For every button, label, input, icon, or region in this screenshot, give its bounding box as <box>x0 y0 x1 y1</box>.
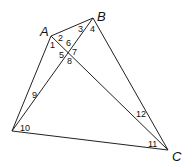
angle-label-5: 5 <box>59 50 64 60</box>
side-da <box>12 36 51 131</box>
angle-label-9: 9 <box>32 90 37 100</box>
angle-label-10: 10 <box>20 123 30 133</box>
vertex-label-c: C <box>172 149 182 164</box>
angle-label-6: 6 <box>66 38 71 48</box>
angle-label-11: 11 <box>148 139 157 149</box>
vertex-label-a: A <box>39 24 49 39</box>
side-cd <box>12 131 168 150</box>
geometry-diagram: A B C 1 2 3 4 5 6 7 8 9 10 11 12 <box>0 0 189 166</box>
angle-label-2: 2 <box>58 33 63 43</box>
angle-label-12: 12 <box>136 109 146 119</box>
vertex-label-b: B <box>97 9 106 24</box>
diagonal-ac <box>51 36 168 150</box>
angle-label-1: 1 <box>50 40 55 50</box>
angle-label-4: 4 <box>90 24 95 34</box>
angle-label-8: 8 <box>67 56 72 66</box>
side-bc <box>93 18 168 150</box>
angle-label-7: 7 <box>72 47 77 57</box>
angle-label-3: 3 <box>78 24 83 34</box>
